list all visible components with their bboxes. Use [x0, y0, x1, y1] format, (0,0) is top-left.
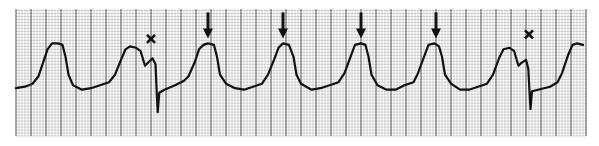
arrow-head: [203, 28, 213, 38]
ecg-trace: [16, 43, 583, 112]
arrow-head: [278, 28, 288, 38]
arrow-head: [431, 28, 441, 38]
arrow-head: [356, 28, 366, 38]
ecg-strip: [0, 0, 599, 146]
grid-major-lines: [16, 9, 586, 136]
